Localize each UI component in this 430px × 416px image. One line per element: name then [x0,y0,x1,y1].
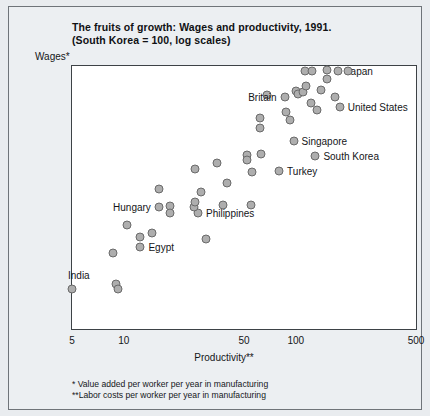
x-tick-50: 50 [238,335,249,346]
footnote-1: * Value added per worker per year in man… [72,379,268,390]
chart-card: The fruits of growth: Wages and producti… [8,6,422,410]
x-tick-100: 100 [287,335,304,346]
footnote-2: **Labor costs per worker per year in man… [72,390,268,401]
x-axis-title: Productivity** [9,352,430,363]
x-tick-5: 5 [69,335,75,346]
x-tick-500: 500 [408,335,425,346]
chart-footnotes: * Value added per worker per year in man… [72,379,268,401]
x-tick-10: 10 [118,335,129,346]
